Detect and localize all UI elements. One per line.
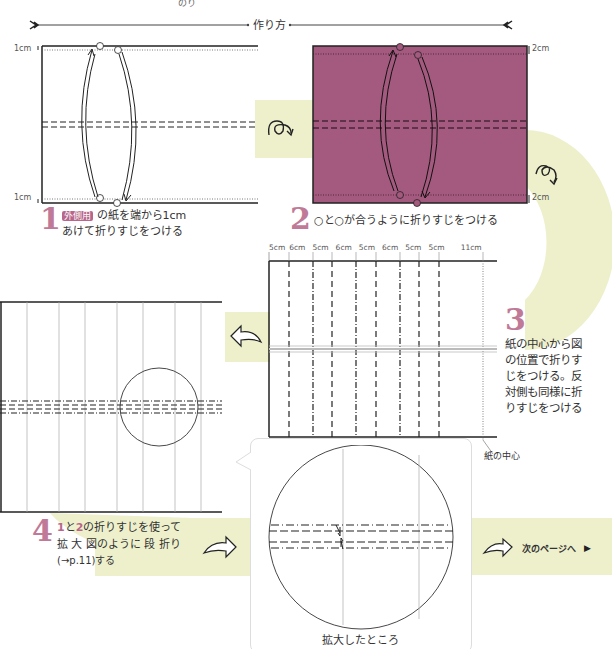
step1-label-bottom: 1cm: [14, 193, 31, 202]
step1-line1: 外側用 の紙を端から1cm: [62, 208, 186, 224]
step1-line2: あけて折りすじをつける: [62, 224, 183, 239]
step3-diagram: [265, 250, 505, 460]
callout-pointer: [232, 450, 254, 474]
step3-number: 3: [505, 305, 526, 335]
step1-label-top: 1cm: [14, 44, 31, 53]
arrow-left-icon: [227, 322, 267, 352]
step4-number: 4: [32, 516, 53, 546]
step4-diagram: [0, 295, 230, 515]
zoom-caption: 拡大したところ: [322, 633, 399, 648]
step2-label-bottom: 2cm: [532, 193, 549, 202]
step4-line2: 拡 大 図のように 段 折り: [57, 537, 181, 552]
top-fragment: のり: [178, 0, 196, 9]
arrow-right-icon: [200, 535, 240, 563]
step4-line1: 1と2の折りすじを使って: [57, 520, 181, 535]
step2-diagram: [305, 40, 545, 210]
flip-over-icon: [265, 117, 297, 141]
next-page-link[interactable]: 次のページへ ▶: [482, 537, 591, 559]
paper-center-label: 紙の中心: [484, 449, 520, 464]
step3-text: 紙の中心から図 の位置で折りす じをつける。反 対側も同様に折 りすじをつける: [505, 336, 582, 416]
section-title: 作り方: [253, 18, 286, 33]
outer-paper-tag: 外側用: [62, 211, 93, 221]
next-page-arrow-icon: [482, 537, 514, 559]
step2-label-top: 2cm: [532, 44, 549, 53]
step2-text: ○と○が合うように折りすじをつける: [314, 213, 498, 228]
next-page-label: 次のページへ: [522, 542, 576, 555]
next-page-triangle-icon: ▶: [584, 543, 591, 553]
zoom-diagram: [265, 445, 465, 635]
step4-line3: (→p.11)する: [57, 553, 115, 568]
step2-number: 2: [290, 204, 311, 234]
rotate-icon: [532, 160, 562, 188]
step1-diagram: [0, 40, 260, 210]
step1-number: 1: [40, 204, 61, 234]
section-rule: [0, 18, 612, 32]
